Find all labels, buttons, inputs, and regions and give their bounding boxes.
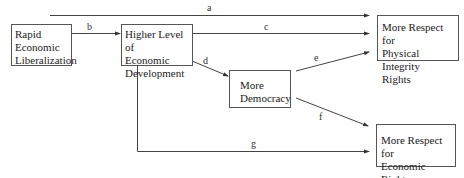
node-rapid-economic-liberalization: Rapid Economic Liberalization — [11, 24, 72, 66]
node-text-line: Democracy — [240, 92, 290, 105]
node-text-line: More Respect for — [381, 134, 452, 160]
node-text-line: Economic — [125, 54, 189, 67]
node-text-line: More Respect for — [382, 21, 454, 47]
edge-label-b: b — [87, 22, 92, 32]
edge-label-a: a — [207, 3, 211, 13]
edge-label-e: e — [314, 53, 318, 63]
node-text-line: Economic — [15, 41, 68, 54]
edge-label-g: g — [251, 139, 256, 149]
node-text-line: Rapid — [15, 28, 68, 41]
node-text-line: Development — [125, 67, 189, 80]
node-economic-rights: More Respect for Economic Rights — [376, 124, 456, 167]
node-more-democracy: More Democracy — [229, 70, 291, 108]
node-higher-economic-development: Higher Level of Economic Development — [121, 24, 193, 66]
node-text-line: Liberalization — [15, 54, 68, 67]
edge-label-d: d — [203, 56, 208, 66]
edge-e-arrow — [296, 52, 369, 71]
node-text-line: More — [240, 79, 290, 92]
edge-label-f: f — [319, 112, 322, 122]
node-text-line: Physical Integrity — [382, 47, 454, 73]
node-physical-integrity-rights: More Respect for Physical Integrity Righ… — [377, 15, 459, 61]
edge-label-c: c — [264, 22, 268, 32]
node-text-line: Higher Level of — [125, 28, 189, 54]
edge-d-arrow — [192, 61, 228, 76]
node-text-line: Rights — [382, 73, 454, 86]
edge-f-arrow — [296, 98, 368, 126]
node-text-line: Economic Rights — [381, 160, 452, 178]
